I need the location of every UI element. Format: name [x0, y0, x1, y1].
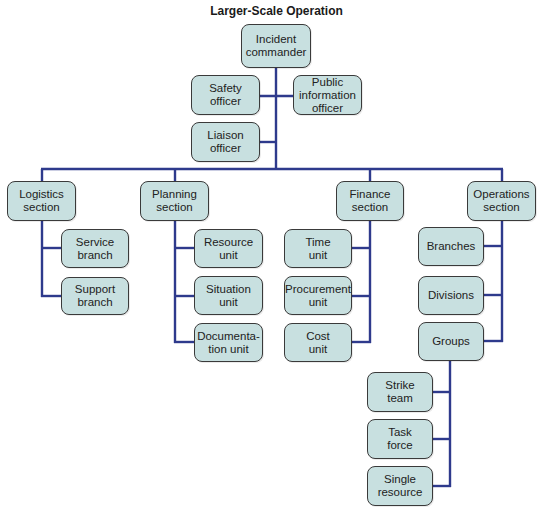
resource-unit-box: Resource unit — [194, 229, 263, 268]
cost-unit-box: Cost unit — [284, 323, 352, 362]
documentation-unit-box: Documenta- tion unit — [194, 323, 263, 362]
liaison-officer-box: Liaison officer — [191, 122, 260, 162]
groups-box: Groups — [418, 322, 484, 361]
task-force-box: Task force — [367, 419, 433, 459]
procurement-unit-box: Procurement unit — [284, 276, 352, 315]
public-information-officer-box: Public information officer — [293, 75, 362, 115]
incident-commander-box: Incident commander — [241, 24, 311, 68]
single-resource-box: Single resource — [367, 466, 433, 506]
support-branch-box: Support branch — [61, 277, 129, 315]
logistics-section-box: Logistics section — [7, 181, 76, 221]
branches-box: Branches — [418, 227, 484, 266]
service-branch-box: Service branch — [61, 229, 129, 268]
divisions-box: Divisions — [418, 276, 484, 315]
operations-section-box: Operations section — [467, 181, 536, 221]
time-unit-box: Time unit — [284, 229, 352, 268]
planning-section-box: Planning section — [140, 181, 209, 221]
strike-team-box: Strike team — [367, 372, 433, 412]
safety-officer-box: Safety officer — [191, 75, 260, 115]
situation-unit-box: Situation unit — [194, 276, 263, 315]
finance-section-box: Finance section — [336, 181, 404, 221]
